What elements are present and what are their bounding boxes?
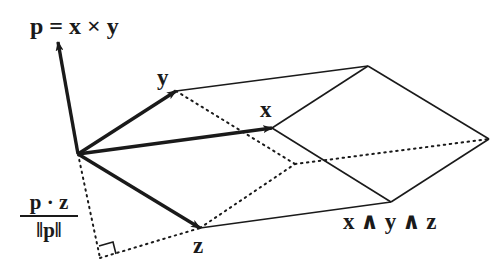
label-vector-x: x: [260, 98, 272, 121]
label-vector-y: y: [157, 66, 169, 89]
vector-x-arrow: [78, 128, 272, 154]
label-p-cross-product: p = x × y: [30, 14, 119, 38]
vector-z-arrow: [78, 154, 200, 228]
solid-edges: [176, 66, 489, 228]
solid-edge: [391, 139, 489, 202]
vector-p-arrow: [58, 42, 78, 154]
label-triple-wedge: x ∧ y ∧ z: [343, 210, 437, 233]
solid-edge: [272, 66, 368, 128]
dotted-edge: [176, 91, 295, 164]
solid-edge: [368, 66, 489, 139]
label-vector-z: z: [193, 234, 203, 257]
dotted-edge: [200, 164, 295, 228]
fraction-numerator: p · z: [20, 192, 78, 215]
dotted-edge: [295, 139, 489, 164]
solid-edge: [272, 128, 391, 202]
fraction-denominator: ‖p‖: [20, 220, 78, 241]
right-angle-marker: [99, 242, 116, 254]
dotted-edge: [100, 228, 200, 258]
dotted-edge: [78, 154, 100, 258]
projection-fraction: p · z ‖p‖: [20, 192, 78, 241]
fraction-bar: [20, 215, 78, 217]
solid-edge: [176, 66, 368, 91]
